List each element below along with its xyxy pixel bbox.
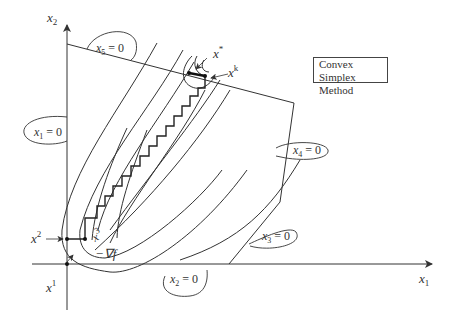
x1-axis-label: x1: [418, 271, 429, 288]
point-xstar: [187, 71, 191, 75]
point-xk: [203, 74, 207, 78]
optimal-segment: [189, 73, 205, 76]
x2-axis-label: x2: [46, 10, 57, 27]
xstar-arrow: [196, 58, 207, 69]
feasible-region: [67, 44, 294, 264]
label-xstar: x*: [212, 44, 224, 61]
label-x1: x1: [45, 278, 56, 295]
gradient-label: −∇f: [95, 246, 119, 261]
title-box: Convex Simplex Method: [313, 57, 388, 83]
title-line-1: Convex Simplex: [319, 58, 387, 84]
point-x3: [83, 237, 87, 241]
svg-text:x4= 0: x4= 0: [292, 143, 321, 159]
label-x2: x2: [30, 229, 41, 246]
diagram-canvas: x5= 0 x1= 0 x2= 0 x3= 0 x4= 0 x2 x1 x1 x…: [0, 0, 455, 325]
label-xk: xk: [227, 63, 239, 80]
svg-text:x5= 0: x5= 0: [95, 41, 124, 57]
label-x3: x3: [87, 225, 105, 245]
point-x1: [65, 262, 69, 266]
svg-text:x2= 0: x2= 0: [169, 272, 198, 288]
svg-text:x1= 0: x1= 0: [33, 125, 62, 141]
point-x2: [65, 237, 69, 241]
gradient-arrow: [67, 255, 73, 262]
xk-arrow: [211, 74, 228, 78]
title-line-2: Method: [319, 84, 387, 97]
svg-text:x3= 0: x3= 0: [261, 229, 290, 245]
iteration-path: [67, 76, 205, 239]
